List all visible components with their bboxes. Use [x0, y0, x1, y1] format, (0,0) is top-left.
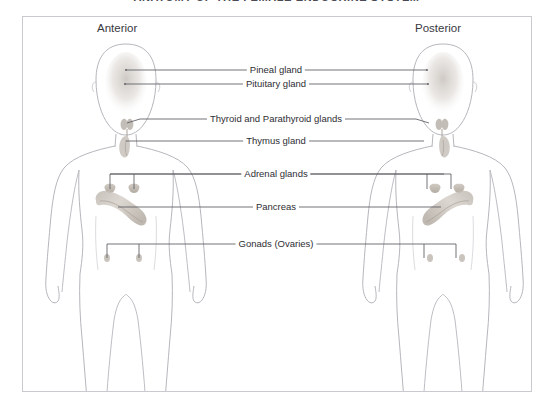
pancreas-organ-posterior [422, 191, 473, 226]
thymus-gland [119, 136, 130, 157]
label-pituitary-gland: Pituitary gland [243, 79, 309, 89]
label-thyroid-glands: Thyroid and Parathyroid glands [207, 114, 345, 124]
label-gonads-ovaries: Gonads (Ovaries) [236, 239, 317, 249]
adrenal-right-posterior [429, 184, 440, 193]
label-pineal-gland: Pineal gland [247, 65, 305, 75]
posterior-figure [363, 44, 524, 415]
anterior-figure [46, 44, 207, 415]
label-adrenal-glands: Adrenal glands [241, 169, 310, 179]
diagram-canvas: ANATOMY OF THE FEMALE ENDOCRINE SYSTEM A… [0, 0, 553, 415]
pancreas-organ [96, 191, 147, 226]
ovary-left-posterior [459, 254, 465, 262]
leader-lines [107, 69, 456, 258]
label-pancreas: Pancreas [253, 202, 299, 212]
ovary-right-posterior [427, 254, 433, 262]
label-thymus-gland: Thymus gland [243, 136, 309, 146]
thymus-gland-posterior [439, 136, 450, 157]
